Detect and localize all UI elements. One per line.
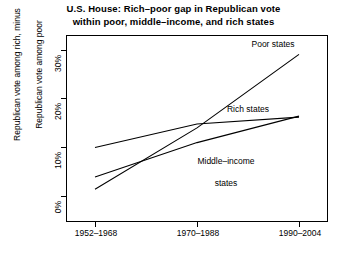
- series-label-middle-income-line-1: Middle–income: [178, 156, 274, 167]
- x-axis-ticks: [96, 222, 300, 228]
- x-tick-label-2: 1990–2004: [255, 228, 345, 238]
- series-label-middle-income-line-2: states: [178, 178, 274, 189]
- series-label-rich-states: Rich states: [213, 104, 283, 115]
- series-label-middle-income-states: Middle–income states: [178, 145, 274, 200]
- x-tick-label-0: 1952–1968: [51, 228, 141, 238]
- series-label-poor-states: Poor states: [236, 39, 310, 50]
- chart-figure: U.S. House: Rich–poor gap in Republican …: [0, 0, 347, 258]
- x-tick-label-1: 1970–1988: [153, 228, 243, 238]
- y-axis-ticks: [61, 51, 67, 197]
